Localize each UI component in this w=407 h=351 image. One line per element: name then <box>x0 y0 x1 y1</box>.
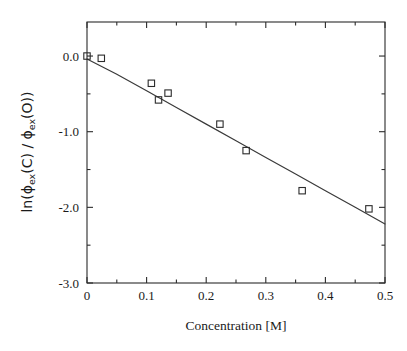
y-tick-label: 0.0 <box>63 49 79 64</box>
ylabel-arg-1: (C) <box>19 153 35 174</box>
data-point-marker <box>217 121 223 127</box>
data-point-marker <box>243 147 249 153</box>
svg-text:ln(ϕex(C) / ϕex(O)): ln(ϕex(C) / ϕex(O)) <box>19 91 37 212</box>
data-point-marker <box>148 80 154 86</box>
y-tick-label: -2.0 <box>58 200 79 215</box>
x-axis-tick-labels: 00.10.20.30.40.5 <box>84 288 393 303</box>
x-axis-title: Concentration [M] <box>186 318 287 333</box>
ylabel-subscript-1: ex <box>26 173 37 185</box>
ylabel-phi-1: ϕ <box>19 185 35 194</box>
y-axis-tick-labels: 0.0-1.0-2.0-3.0 <box>58 49 79 291</box>
x-tick-label: 0.4 <box>317 288 334 303</box>
scatter-plot: 00.10.20.30.40.5 0.0-1.0-2.0-3.0 Concent… <box>0 0 407 351</box>
x-tick-label: 0.1 <box>138 288 154 303</box>
x-tick-label: 0 <box>84 288 91 303</box>
data-point-marker <box>366 206 372 212</box>
data-point-marker <box>299 188 305 194</box>
ylabel-prefix: ln( <box>19 194 35 212</box>
y-tick-label: -1.0 <box>58 124 79 139</box>
y-tick-label: -3.0 <box>58 276 79 291</box>
figure-container: 00.10.20.30.40.5 0.0-1.0-2.0-3.0 Concent… <box>0 0 407 351</box>
x-tick-label: 0.3 <box>258 288 274 303</box>
x-tick-label: 0.5 <box>377 288 393 303</box>
x-tick-label: 0.2 <box>198 288 214 303</box>
data-point-marker <box>98 55 104 61</box>
y-axis-title: ln(ϕex(C) / ϕex(O)) <box>19 91 37 212</box>
fit-curve <box>87 59 385 224</box>
ylabel-separator: / <box>19 139 35 153</box>
data-point-marker <box>165 90 171 96</box>
y-axis-ticks <box>87 56 385 283</box>
ylabel-arg-2: (O) <box>19 97 35 119</box>
x-axis-ticks <box>87 22 385 283</box>
plot-frame <box>87 22 385 283</box>
ylabel-phi-2: ϕ <box>19 130 35 139</box>
ylabel-subscript-2: ex <box>26 119 37 131</box>
data-point-markers <box>84 53 372 212</box>
ylabel-suffix: ) <box>19 91 35 96</box>
